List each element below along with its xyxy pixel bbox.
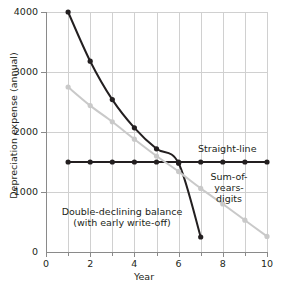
x-tick: [267, 252, 268, 257]
y-axis-line: [46, 12, 47, 252]
y-tick-label: 4000: [2, 6, 38, 17]
y-tick: [41, 12, 46, 13]
x-tick: [90, 252, 91, 257]
annotation-ddb-line2: (with early write-off): [73, 217, 170, 228]
x-tick: [134, 252, 135, 257]
annotation-sum-of-years-digits: Sum-of-years- digits: [196, 171, 262, 204]
x-tick-label: 4: [119, 258, 149, 269]
x-tick-label: 10: [252, 258, 282, 269]
annotation-syd-line1: Sum-of-years-: [211, 171, 248, 193]
x-axis-title: Year: [0, 271, 288, 282]
y-tick: [41, 132, 46, 133]
x-tick-label: 2: [75, 258, 105, 269]
x-tick-label: 8: [208, 258, 238, 269]
gridline-vertical: [267, 12, 268, 252]
gridline-horizontal: [46, 132, 267, 133]
x-tick-minor: [68, 252, 69, 256]
y-axis-title: Depreciation expense (annual): [8, 51, 19, 201]
x-tick-minor: [201, 252, 202, 256]
annotation-ddb-line1: Double-declining balance: [62, 206, 183, 217]
y-tick: [41, 192, 46, 193]
x-tick: [46, 252, 47, 257]
gridline-horizontal: [46, 72, 267, 73]
annotation-double-declining-balance: Double-declining balance (with early wri…: [58, 206, 186, 228]
gridline-horizontal: [46, 12, 267, 13]
y-tick: [41, 72, 46, 73]
x-tick: [223, 252, 224, 257]
annotation-straight-line: Straight-line: [198, 143, 256, 154]
x-tick-minor: [245, 252, 246, 256]
x-tick-label: 0: [31, 258, 61, 269]
x-tick: [179, 252, 180, 257]
x-tick-minor: [112, 252, 113, 256]
annotation-syd-line2: digits: [216, 193, 242, 204]
y-tick-label: 0: [2, 246, 38, 257]
x-tick-minor: [157, 252, 158, 256]
x-tick-label: 6: [164, 258, 194, 269]
depreciation-chart: 024681001000200030004000 Straight-line S…: [0, 0, 288, 288]
